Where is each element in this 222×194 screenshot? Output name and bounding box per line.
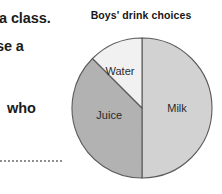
worksheet-text-column: a class. se a - who xyxy=(0,0,66,194)
worksheet-text-line: a class. xyxy=(0,10,51,26)
worksheet-text-line: who xyxy=(7,100,36,116)
pie-slice-label-milk: Milk xyxy=(167,102,187,114)
pie-slices-group xyxy=(72,38,212,178)
pie-chart-figure: Boys' drink choices MilkJuiceWater xyxy=(66,0,222,194)
pie-slice-label-juice: Juice xyxy=(96,109,122,121)
answer-dotted-line[interactable] xyxy=(0,148,62,162)
pie-chart-svg: MilkJuiceWater xyxy=(71,26,219,191)
pie-slice-label-water: Water xyxy=(106,65,135,77)
chart-title: Boys' drink choices xyxy=(66,9,216,21)
worksheet-text-line: se a xyxy=(0,38,24,54)
